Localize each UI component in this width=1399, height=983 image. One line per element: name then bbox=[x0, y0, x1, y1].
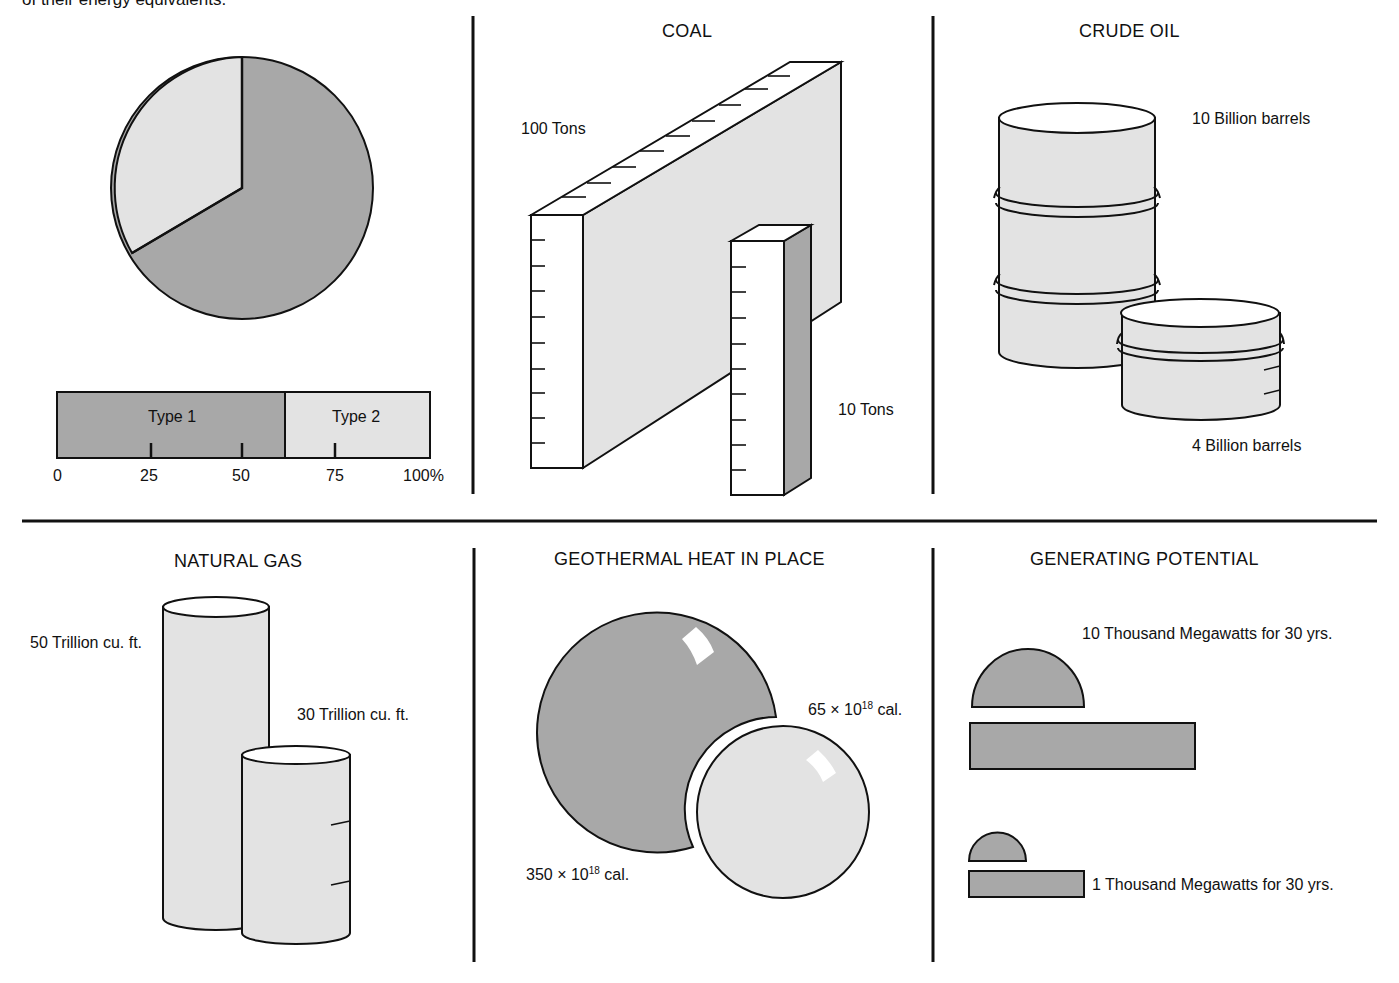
gas-large-label: 50 Trillion cu. ft. bbox=[30, 634, 142, 652]
coal-small-label: 10 Tons bbox=[838, 401, 894, 419]
generating-small-pictogram bbox=[969, 833, 1084, 898]
oil-large-label: 10 Billion barrels bbox=[1192, 110, 1310, 128]
bar-label-type-1: Type 1 bbox=[148, 408, 196, 426]
axis-tick-25: 25 bbox=[140, 467, 158, 485]
bar-label-type-2: Type 2 bbox=[332, 408, 380, 426]
axis-tick-100: 100% bbox=[403, 467, 444, 485]
geothermal-small-unit: cal. bbox=[873, 701, 902, 718]
generating-title: GENERATING POTENTIAL bbox=[1030, 549, 1259, 570]
gas-small-label: 30 Trillion cu. ft. bbox=[297, 706, 409, 724]
axis-tick-75: 75 bbox=[326, 467, 344, 485]
geothermal-large-unit: cal. bbox=[600, 866, 629, 883]
geothermal-small-sphere bbox=[697, 726, 869, 898]
generating-small-label: 1 Thousand Megawatts for 30 yrs. bbox=[1092, 876, 1334, 894]
coal-title: COAL bbox=[662, 21, 712, 42]
geothermal-large-exp: 18 bbox=[589, 865, 600, 876]
oil-small-label: 4 Billion barrels bbox=[1192, 437, 1301, 455]
gas-small-cylinder bbox=[242, 746, 350, 944]
oil-small-barrel bbox=[1117, 299, 1284, 420]
infographic-canvas bbox=[0, 0, 1399, 983]
coal-large-label: 100 Tons bbox=[521, 120, 586, 138]
geothermal-small-base: 65 × 10 bbox=[808, 701, 862, 718]
pie-chart bbox=[111, 57, 373, 319]
geothermal-title: GEOTHERMAL HEAT IN PLACE bbox=[554, 549, 825, 570]
geothermal-small-label: 65 × 1018 cal. bbox=[808, 700, 902, 719]
geothermal-large-label: 350 × 1018 cal. bbox=[526, 865, 629, 884]
axis-tick-50: 50 bbox=[232, 467, 250, 485]
generating-large-pictogram bbox=[970, 649, 1195, 769]
geothermal-large-base: 350 × 10 bbox=[526, 866, 589, 883]
natural-gas-title: NATURAL GAS bbox=[174, 551, 302, 572]
generating-large-label: 10 Thousand Megawatts for 30 yrs. bbox=[1082, 625, 1333, 643]
coal-small-block bbox=[731, 225, 811, 495]
crude-oil-title: CRUDE OIL bbox=[1079, 21, 1180, 42]
geothermal-small-exp: 18 bbox=[862, 700, 873, 711]
axis-tick-0: 0 bbox=[53, 467, 62, 485]
